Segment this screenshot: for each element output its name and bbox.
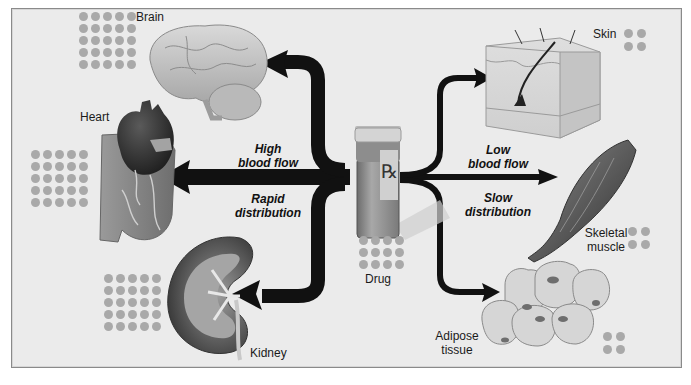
rapid-line: Rapid (222, 192, 314, 206)
label-rapid-distribution: Rapid distribution (222, 192, 314, 220)
label-adipose-line1: Adipose (432, 329, 482, 343)
label-skeletal-muscle: Skeletal muscle (580, 226, 632, 254)
label-brain: Brain (136, 10, 164, 24)
distribution-line-right: distribution (452, 205, 544, 219)
distribution-line: distribution (222, 206, 314, 220)
dot-grid-skin (624, 29, 646, 51)
blood-flow-line-right: blood flow (458, 157, 538, 171)
skin-icon (486, 28, 600, 138)
label-kidney: Kidney (250, 346, 287, 360)
heart-icon (100, 100, 175, 242)
label-adipose-line2: tissue (432, 343, 482, 357)
label-heart: Heart (80, 110, 109, 124)
label-slow-distribution: Slow distribution (452, 191, 544, 219)
label-high-blood-flow: High blood flow (228, 142, 308, 170)
blood-flow-line: blood flow (228, 156, 308, 170)
label-adipose-tissue: Adipose tissue (432, 329, 482, 357)
dot-grid-drug (359, 236, 404, 269)
kidney-icon (168, 237, 253, 360)
dot-grid-adipose (603, 332, 625, 354)
label-low-blood-flow: Low blood flow (458, 143, 538, 171)
label-skin: Skin (593, 27, 616, 41)
dot-grid-kidney (104, 274, 161, 331)
dot-grid-muscle (628, 227, 650, 249)
high-line: High (228, 142, 308, 156)
rx-symbol: ℞ (381, 160, 398, 183)
brain-icon (150, 25, 267, 120)
label-skeletal-muscle-line2: muscle (580, 240, 632, 254)
dot-grid-brain (79, 12, 136, 69)
label-drug: Drug (365, 272, 391, 286)
label-skeletal-muscle-line1: Skeletal (580, 226, 632, 240)
dot-grid-heart (31, 150, 88, 207)
slow-line: Slow (452, 191, 544, 205)
adipose-cells-icon (482, 261, 610, 346)
low-line: Low (458, 143, 538, 157)
